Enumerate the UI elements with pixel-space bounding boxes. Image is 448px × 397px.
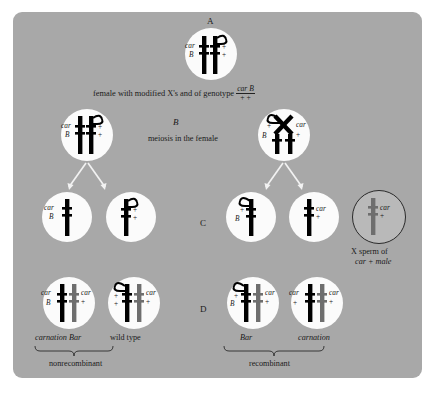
bracket-shapes xyxy=(13,12,422,378)
bracket-label-nonrecombinant: nonrecombinant xyxy=(49,360,102,368)
bracket-label-recombinant: recombinant xyxy=(249,360,290,368)
figure-panel: A car B + + female with modified X's and… xyxy=(13,12,422,378)
